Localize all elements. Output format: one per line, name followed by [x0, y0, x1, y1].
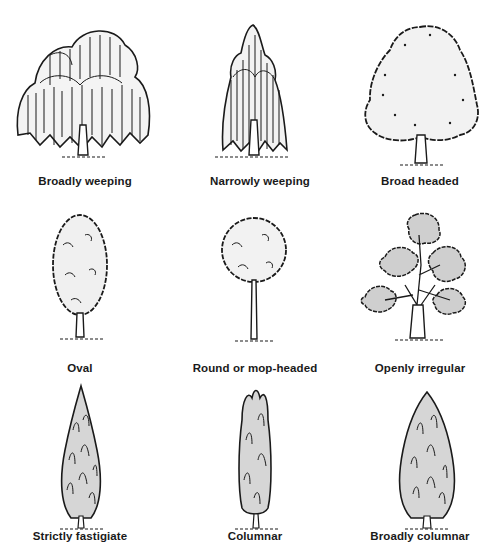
- columnar-tree-illustration: [180, 380, 330, 530]
- tree-broadly-columnar: Broadly columnar: [355, 380, 496, 546]
- tree-broadly-weeping: Broadly weeping: [10, 15, 160, 195]
- broadly-columnar-tree-illustration: [355, 380, 485, 530]
- broadly-weeping-tree-illustration: [10, 15, 160, 175]
- label-broad-headed: Broad headed: [345, 175, 495, 187]
- label-round-mop-headed: Round or mop-headed: [180, 362, 330, 374]
- label-broadly-weeping: Broadly weeping: [10, 175, 160, 187]
- broad-headed-tree-illustration: [355, 15, 485, 175]
- round-mop-headed-tree-illustration: [180, 205, 330, 350]
- tree-strictly-fastigiate: Strictly fastigiate: [5, 380, 155, 546]
- label-openly-irregular: Openly irregular: [345, 362, 495, 374]
- tree-narrowly-weeping: Narrowly weeping: [185, 15, 335, 195]
- tree-broad-headed: Broad headed: [355, 15, 496, 195]
- tree-oval: Oval: [5, 205, 155, 380]
- strictly-fastigiate-tree-illustration: [5, 380, 155, 530]
- label-narrowly-weeping: Narrowly weeping: [185, 175, 335, 187]
- label-oval: Oval: [5, 362, 155, 374]
- tree-round-mop-headed: Round or mop-headed: [180, 205, 330, 380]
- oval-tree-illustration: [5, 205, 155, 350]
- narrowly-weeping-tree-illustration: [185, 15, 335, 175]
- label-broadly-columnar: Broadly columnar: [345, 530, 495, 542]
- label-columnar: Columnar: [180, 530, 330, 542]
- label-strictly-fastigiate: Strictly fastigiate: [5, 530, 155, 542]
- tree-columnar: Columnar: [180, 380, 330, 546]
- openly-irregular-tree-illustration: [355, 205, 485, 350]
- tree-openly-irregular: Openly irregular: [355, 205, 496, 380]
